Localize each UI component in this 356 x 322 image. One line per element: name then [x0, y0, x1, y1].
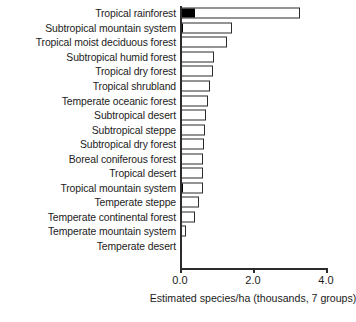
- category-label: Boreal coniferous forest: [69, 153, 176, 164]
- bar: [180, 51, 214, 62]
- bar-track: [180, 168, 203, 179]
- plot-area: Tropical rainforestSubtropical mountain …: [0, 6, 338, 268]
- bar-row: Subtropical dry forest: [0, 137, 338, 152]
- bar-track: [180, 211, 195, 222]
- x-tick-label: 4.0: [318, 274, 333, 287]
- category-label: Tropical dry forest: [95, 66, 176, 77]
- bar-track: [180, 66, 213, 77]
- x-tick-label: 2.0: [245, 274, 260, 287]
- bar-track: [180, 51, 214, 62]
- bar-track: [180, 197, 199, 208]
- category-label: Temperate oceanic forest: [62, 95, 176, 106]
- bar-row: Tropical mountain system: [0, 181, 338, 196]
- bar: [180, 139, 204, 150]
- category-label: Temperate mountain system: [48, 226, 176, 237]
- bar-track: [180, 110, 206, 121]
- bar: [180, 37, 227, 48]
- bar-row: Tropical desert: [0, 166, 338, 181]
- bar-track: [180, 8, 300, 19]
- bar-row: Temperate steppe: [0, 195, 338, 210]
- bar: [180, 197, 199, 208]
- x-tick: [253, 268, 255, 273]
- bar: [180, 110, 206, 121]
- bar-track: [180, 81, 210, 92]
- category-label: Tropical desert: [109, 168, 176, 179]
- bar-track: [180, 182, 203, 193]
- bar: [180, 211, 195, 222]
- bar-row: Tropical dry forest: [0, 64, 338, 79]
- bar: [180, 81, 210, 92]
- bar-row: Temperate mountain system: [0, 224, 338, 239]
- category-label: Temperate continental forest: [48, 211, 176, 222]
- category-label: Temperate steppe: [94, 197, 176, 208]
- category-label: Subtropical dry forest: [80, 139, 176, 150]
- bar: [180, 8, 300, 19]
- bar-row: Subtropical mountain system: [0, 21, 338, 36]
- bar-row: Temperate desert: [0, 239, 338, 254]
- bar: [180, 168, 203, 179]
- bar: [180, 66, 213, 77]
- bar-track: [180, 22, 232, 33]
- x-tick: [326, 268, 328, 273]
- bar-row: Temperate continental forest: [0, 210, 338, 225]
- category-label: Tropical moist deciduous forest: [36, 37, 176, 48]
- bar: [180, 95, 208, 106]
- bar: [180, 22, 232, 33]
- category-label: Tropical shrubland: [93, 81, 176, 92]
- bar-rows: Tropical rainforestSubtropical mountain …: [0, 6, 338, 253]
- bar-row: Subtropical desert: [0, 108, 338, 123]
- bar-track: [180, 124, 205, 135]
- bar-track: [180, 153, 203, 164]
- category-label: Subtropical humid forest: [66, 51, 176, 62]
- category-label: Tropical mountain system: [60, 182, 176, 193]
- bar: [180, 124, 205, 135]
- bar-track: [180, 139, 204, 150]
- bar-row: Boreal coniferous forest: [0, 151, 338, 166]
- x-tick: [180, 268, 182, 273]
- y-axis-line: [180, 6, 182, 268]
- category-label: Tropical rainforest: [95, 8, 176, 19]
- bar-track: [180, 95, 208, 106]
- x-axis-title: Estimated species/ha (thousands, 7 group…: [150, 292, 356, 305]
- bar-row: Tropical shrubland: [0, 79, 338, 94]
- bar: [180, 182, 203, 193]
- bar-row: Subtropical steppe: [0, 122, 338, 137]
- bar-row: Temperate oceanic forest: [0, 93, 338, 108]
- bar-row: Tropical moist deciduous forest: [0, 35, 338, 50]
- bar-row: Tropical rainforest: [0, 6, 338, 21]
- category-label: Subtropical steppe: [92, 124, 176, 135]
- bar-row: Subtropical humid forest: [0, 50, 338, 65]
- bar-track: [180, 37, 227, 48]
- category-label: Subtropical desert: [94, 110, 176, 121]
- category-label: Subtropical mountain system: [45, 22, 176, 33]
- bar-dark-segment: [181, 9, 195, 18]
- bar: [180, 153, 203, 164]
- x-tick-label: 0.0: [172, 274, 187, 287]
- category-label: Temperate desert: [97, 241, 176, 252]
